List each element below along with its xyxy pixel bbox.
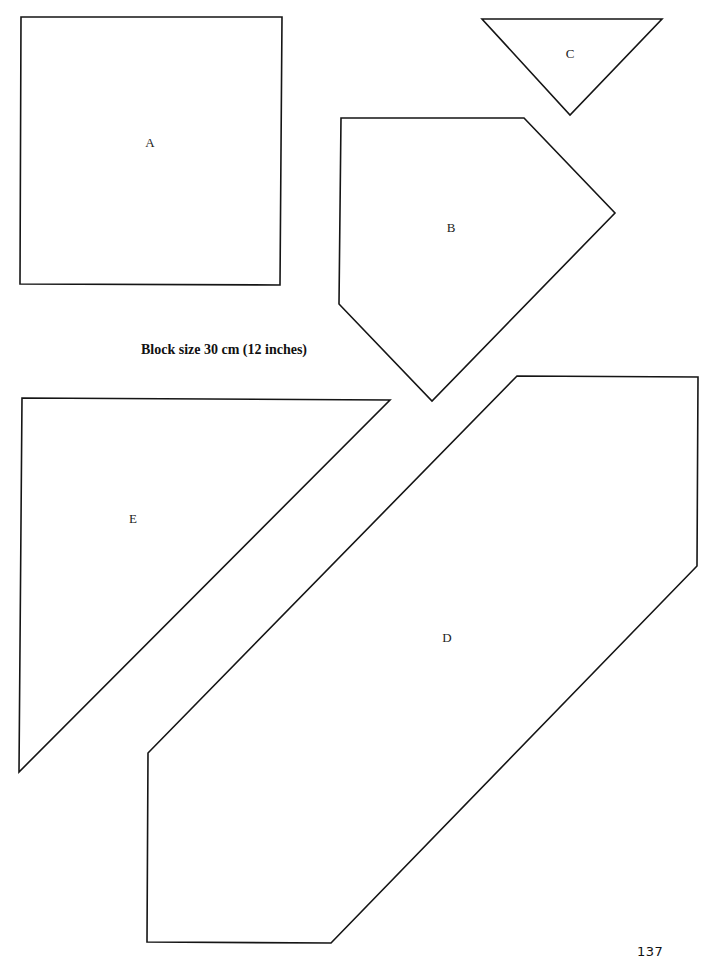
piece-a-label: A [145,136,154,149]
piece-b-label: B [447,221,456,234]
page-number: 137 [637,944,663,960]
piece-d-label: D [442,631,451,644]
piece-a-outline [20,17,282,285]
block-size-heading: Block size 30 cm (12 inches) [141,341,307,359]
piece-c-outline [482,19,662,115]
template-pieces-canvas [0,0,716,961]
piece-c-label: C [566,47,575,60]
template-page: A B C D E Block size 30 cm (12 inches) 1… [0,0,716,961]
piece-e-label: E [129,512,137,525]
piece-b-outline [339,118,615,401]
